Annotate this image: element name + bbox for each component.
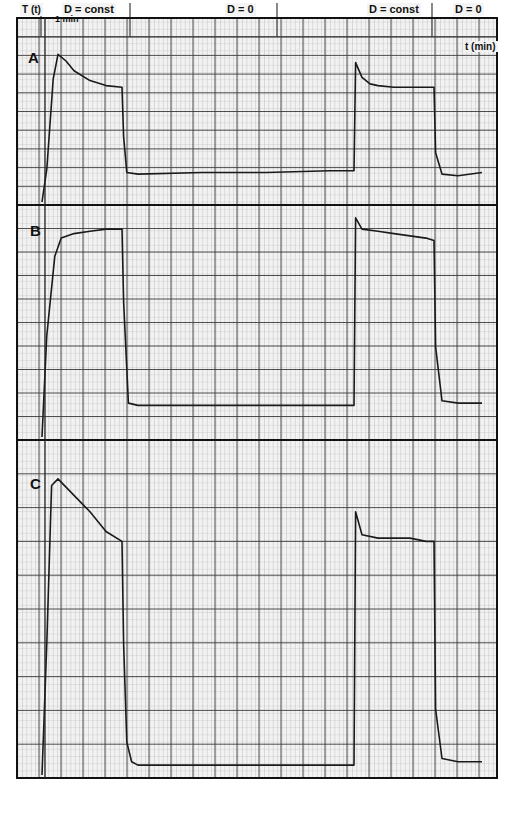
x-axis-label: t (min) [463,41,498,52]
chart-paper [17,18,497,778]
panel-label-c: C [30,475,41,492]
panel-label-b: B [30,222,41,239]
phase-label-4: D = 0 [453,3,484,16]
phase-label-3: D = const [367,3,421,16]
y-axis-label: T (t) [20,3,43,16]
phase-label-2: D = 0 [225,3,256,16]
panel-label-a: A [28,49,39,66]
time-scale-label: 1 min [55,14,79,24]
strip-chart-recording [0,0,520,820]
